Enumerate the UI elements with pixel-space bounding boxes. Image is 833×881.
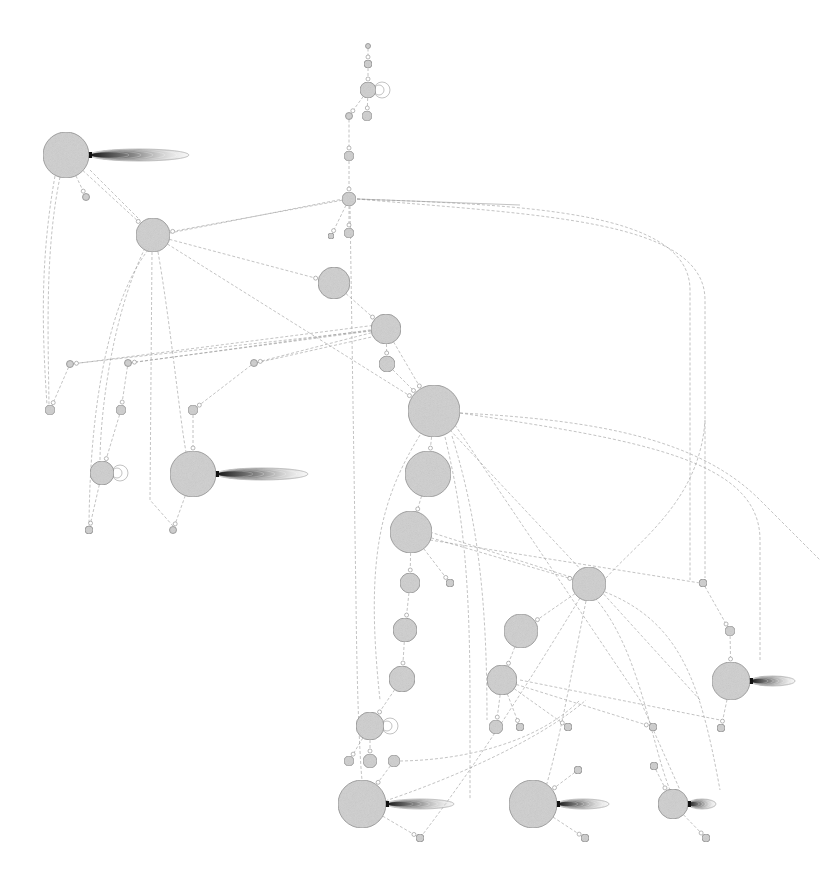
graph-node-n9[interactable] (328, 233, 334, 239)
edge-curve (452, 436, 487, 720)
edge-curve (72, 324, 384, 364)
graph-node-n13[interactable] (318, 267, 350, 299)
edge-arrowhead-icon (368, 749, 372, 753)
graph-node-n32[interactable] (489, 720, 503, 734)
graph-node-n16[interactable] (408, 385, 460, 437)
graph-node-n12[interactable] (136, 218, 170, 252)
self-loop-tail (686, 799, 716, 809)
graph-node-n18[interactable] (390, 511, 432, 553)
graph-node-n7[interactable] (342, 192, 356, 206)
graph-node-n41[interactable] (702, 834, 710, 842)
edge-arrowhead-icon (407, 394, 411, 398)
graph-node-n48[interactable] (125, 360, 132, 367)
graph-node-n22[interactable] (389, 666, 415, 692)
edge (514, 689, 562, 723)
graph-node-n26[interactable] (388, 755, 400, 767)
graph-node-n14[interactable] (371, 314, 401, 344)
edge-arrowhead-icon (351, 752, 355, 756)
graph-node-n27[interactable] (338, 780, 386, 828)
edge (516, 684, 646, 724)
graph-node-n24[interactable] (344, 756, 354, 766)
edge-curve (158, 252, 186, 452)
graph-node-n23[interactable] (356, 712, 384, 740)
edge-arrowhead-icon (644, 723, 648, 727)
graph-node-n36[interactable] (574, 766, 582, 774)
graph-node-n19[interactable] (400, 573, 420, 593)
graph-node-n50[interactable] (90, 461, 114, 485)
edge-arrowhead-icon (136, 219, 140, 223)
edge (380, 690, 395, 712)
edge-arrowhead-icon (724, 622, 728, 626)
long-edges (43, 170, 820, 838)
edge-arrowhead-icon (120, 400, 124, 404)
edge (555, 772, 575, 787)
graph-node-n29[interactable] (572, 567, 606, 601)
graph-node-n45[interactable] (717, 724, 725, 732)
edge-arrowhead-icon (347, 146, 351, 150)
graph-node-n25[interactable] (363, 754, 377, 768)
edge-arrowhead-icon (444, 575, 448, 579)
graph-node-n53[interactable] (251, 360, 258, 367)
edge-arrowhead-icon (577, 832, 581, 836)
edge-arrowhead-icon (385, 351, 389, 355)
edge-arrowhead-icon (347, 187, 351, 191)
graph-node-n5[interactable] (346, 113, 353, 120)
graph-node-n28[interactable] (416, 834, 424, 842)
edge-curve (357, 199, 520, 205)
edge-arrowhead-icon (401, 661, 405, 665)
edge-arrowhead-icon (258, 359, 262, 363)
edge (509, 647, 515, 663)
edge (199, 365, 251, 405)
graph-node-n47[interactable] (45, 405, 55, 415)
edge-arrowhead-icon (366, 77, 370, 81)
edge-curve (90, 170, 140, 220)
edge-arrowhead-icon (412, 832, 416, 836)
edge-arrowhead-icon (405, 613, 409, 617)
self-loop-tail (555, 799, 609, 809)
edge-arrowhead-icon (104, 457, 108, 461)
graph-node-n39[interactable] (650, 762, 658, 770)
graph-node-n31[interactable] (487, 665, 517, 695)
graph-node-n34[interactable] (564, 723, 572, 731)
graph-node-n1[interactable] (366, 44, 371, 49)
edge (431, 538, 570, 579)
graph-node-n6[interactable] (344, 151, 354, 161)
graph-node-n44[interactable] (712, 662, 750, 700)
graph-node-n4[interactable] (362, 111, 372, 121)
edge-curve (445, 437, 470, 800)
graph-node-n2[interactable] (364, 60, 372, 68)
graph-node-n51[interactable] (85, 526, 93, 534)
graph-node-n42[interactable] (699, 579, 707, 587)
edge-arrowhead-icon (729, 657, 733, 661)
graph-node-n54[interactable] (170, 451, 216, 497)
graph-node-n10[interactable] (43, 132, 89, 178)
graph-node-n55[interactable] (170, 527, 177, 534)
edge-arrowhead-icon (366, 55, 370, 59)
edge-arrowhead-icon (351, 109, 355, 113)
graph-node-n49[interactable] (116, 405, 126, 415)
edge-arrowhead-icon (507, 661, 511, 665)
edge (91, 485, 100, 523)
edge (353, 738, 363, 754)
edge (134, 331, 371, 362)
graph-node-n43[interactable] (725, 626, 735, 636)
graph-node-n37[interactable] (509, 780, 557, 828)
graph-node-n35[interactable] (649, 723, 657, 731)
graph-node-n8[interactable] (344, 228, 354, 238)
graph-node-n15[interactable] (379, 356, 395, 372)
edge-arrowhead-icon (720, 719, 724, 723)
graph-node-n20[interactable] (446, 579, 454, 587)
edge-curve (595, 598, 670, 790)
graph-node-n38[interactable] (581, 834, 589, 842)
graph-node-n11[interactable] (83, 194, 90, 201)
edge-arrowhead-icon (568, 576, 572, 580)
graph-node-n40[interactable] (658, 789, 688, 819)
graph-node-n30[interactable] (504, 614, 538, 648)
graph-node-n3[interactable] (360, 82, 376, 98)
graph-node-n17[interactable] (405, 451, 451, 497)
graph-node-n46[interactable] (67, 361, 74, 368)
graph-node-n52[interactable] (188, 405, 198, 415)
graph-node-n21[interactable] (393, 618, 417, 642)
edge-curve (455, 425, 680, 790)
graph-node-n33[interactable] (516, 723, 524, 731)
